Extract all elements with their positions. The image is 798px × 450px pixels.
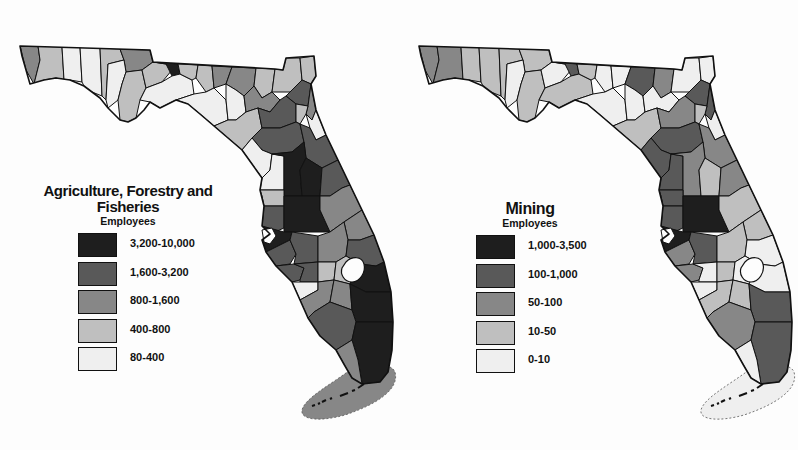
county xyxy=(479,47,501,96)
county xyxy=(196,65,214,92)
legend-label: 800-1,600 xyxy=(130,294,180,306)
legend-title-line1: Agriculture, Forestry and xyxy=(38,183,218,199)
legend-swatch xyxy=(78,319,117,343)
legend-swatch xyxy=(78,233,117,257)
county xyxy=(461,47,481,82)
county xyxy=(290,232,318,264)
legend-swatch xyxy=(476,321,515,345)
county xyxy=(80,47,102,96)
legend-title-line1: Mining xyxy=(465,201,595,217)
legend-label: 1,600-3,200 xyxy=(130,266,189,278)
legend-swatch xyxy=(78,347,117,371)
mining-florida-map xyxy=(399,0,798,450)
legend-label: 0-10 xyxy=(528,353,550,365)
legend-title-line2: Fisheries xyxy=(38,199,218,215)
legend-swatch xyxy=(476,292,515,316)
legend-label: 10-50 xyxy=(528,325,556,337)
legend-subtitle: Employees xyxy=(465,217,595,229)
legend-label: 100-1,000 xyxy=(528,268,578,280)
legend-label: 1,000-3,500 xyxy=(528,239,587,251)
mining-map-panel: Mining Employees 1,000-3,500 100-1,000 5… xyxy=(399,0,798,450)
agriculture-map-panel: Agriculture, Forestry and Fisheries Empl… xyxy=(0,0,399,450)
legend-swatch xyxy=(78,290,117,314)
legend-swatch xyxy=(78,262,117,286)
legend-swatch xyxy=(476,235,515,259)
legend-swatch xyxy=(476,264,515,288)
legend-swatch xyxy=(476,349,515,373)
county xyxy=(62,47,82,82)
legend-label: 80-400 xyxy=(130,351,164,363)
county xyxy=(717,262,735,282)
county xyxy=(595,65,613,92)
mining-legend: Mining Employees 1,000-3,500 100-1,000 5… xyxy=(465,201,595,229)
legend-subtitle: Employees xyxy=(38,215,218,227)
legend-label: 3,200-10,000 xyxy=(130,237,195,249)
legend-label: 400-800 xyxy=(130,323,170,335)
county xyxy=(318,262,336,282)
county xyxy=(689,232,717,264)
legend-label: 50-100 xyxy=(528,296,562,308)
agriculture-legend: Agriculture, Forestry and Fisheries Empl… xyxy=(38,183,218,227)
